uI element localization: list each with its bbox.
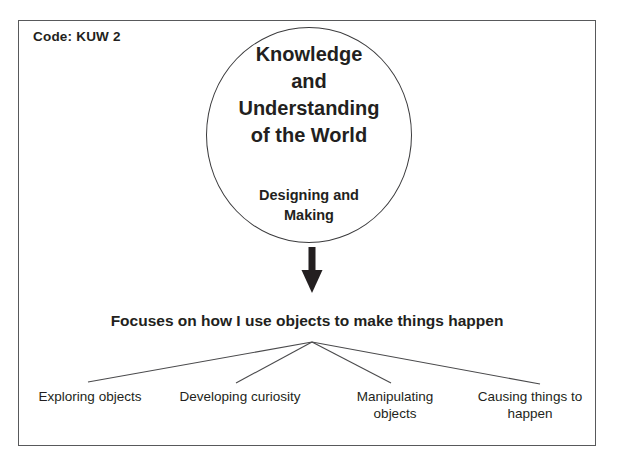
branch-label-line: happen xyxy=(460,405,600,422)
statement-text: Focuses on how I use objects to make thi… xyxy=(18,312,596,330)
branch-label-line: objects xyxy=(330,405,460,422)
branch-label-exploring-objects: Exploring objects xyxy=(20,388,160,405)
circle-title-line-2: and xyxy=(206,68,412,95)
circle-title: Knowledge and Understanding of the World xyxy=(206,41,412,149)
circle-title-line-4: of the World xyxy=(206,122,412,149)
diagram-canvas: Code: KUW 2 Knowledge and Understanding … xyxy=(0,0,619,466)
circle-subtitle-line-1: Designing and xyxy=(206,185,412,205)
circle-subtitle-line-2: Making xyxy=(206,205,412,225)
code-label: Code: KUW 2 xyxy=(33,29,121,44)
branch-label-line: Causing things to xyxy=(460,388,600,405)
branch-label-line: Developing curiosity xyxy=(160,388,320,405)
branch-label-manipulating-objects: Manipulating objects xyxy=(330,388,460,422)
branch-label-causing-things-to-happen: Causing things to happen xyxy=(460,388,600,422)
branch-label-line: Exploring objects xyxy=(20,388,160,405)
circle-title-line-3: Understanding xyxy=(206,95,412,122)
branch-label-line: Manipulating xyxy=(330,388,460,405)
circle-subtitle: Designing and Making xyxy=(206,185,412,225)
circle-title-line-1: Knowledge xyxy=(206,41,412,68)
branch-label-developing-curiosity: Developing curiosity xyxy=(160,388,320,405)
